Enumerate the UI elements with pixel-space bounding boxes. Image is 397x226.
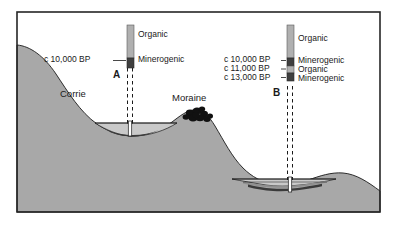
core-a-label-organic: Organic	[138, 30, 168, 39]
core-b-layer-organic-lower	[287, 66, 294, 73]
core-a-layer-organic	[127, 25, 134, 58]
moraine-label: Moraine	[172, 93, 206, 103]
core-a-label-minerogenic: Minerogenic	[138, 55, 184, 64]
core-b-tube	[288, 177, 291, 192]
figure-container: c 10,000 BP Organic Minerogenic A c 10,0…	[0, 0, 397, 226]
core-b-id-label: B	[273, 88, 280, 98]
core-b-label-minerogenic-lower: Minerogenic	[298, 74, 344, 83]
core-b-layer-minerogenic-upper	[287, 58, 294, 66]
corrie-label: Corrie	[60, 89, 86, 99]
core-a-date-10000bp: c 10,000 BP	[44, 55, 90, 64]
core-b-layer-minerogenic-lower	[287, 73, 294, 81]
core-a-tube	[128, 121, 131, 136]
core-b-label-organic-upper: Organic	[298, 34, 328, 43]
core-b-date-13000bp: c 13,000 BP	[224, 73, 270, 82]
cross-section-diagram	[0, 0, 397, 226]
core-b-layer-organic-upper	[287, 25, 294, 58]
core-a-layer-minerogenic	[127, 58, 134, 68]
core-a-id-label: A	[113, 70, 120, 80]
